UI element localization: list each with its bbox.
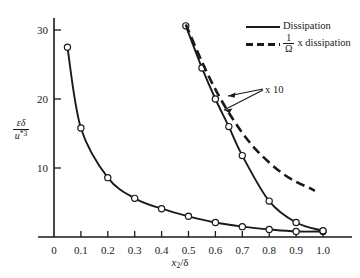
legend-fraction-denominator: Ω	[283, 44, 294, 55]
x-tick-label: 0.2	[101, 244, 115, 256]
x10-annotation-label: x 10	[265, 84, 283, 95]
x-tick-label: 0.3	[128, 244, 142, 256]
y-axis-title: εδ u*3	[4, 118, 38, 141]
x-tick-label: 0.5	[182, 244, 196, 256]
legend-item-omega-dissipation: 1 Ω x dissipation	[246, 35, 351, 52]
data-series-group	[64, 23, 326, 235]
y-axis-denominator: u*3	[13, 130, 30, 142]
x-tick-label: 0.8	[262, 244, 276, 256]
y-tick-label: 10	[22, 162, 48, 174]
x-tick-label: 0.7	[235, 244, 249, 256]
data-point-marker	[239, 152, 245, 158]
y-axis-exponent: *3	[20, 129, 28, 138]
data-point-marker	[212, 96, 218, 102]
data-point-marker	[64, 44, 70, 50]
legend-label-dissipation: Dissipation	[283, 21, 331, 32]
x10-leader-arrows	[224, 89, 263, 113]
data-point-marker	[212, 219, 218, 225]
data-point-marker	[293, 219, 299, 225]
data-point-marker	[185, 213, 191, 219]
data-point-marker	[266, 198, 272, 204]
data-point-marker	[159, 206, 165, 212]
legend-fraction-one-over-omega: 1 Ω	[283, 33, 294, 55]
x-tick-label: 0.4	[155, 244, 169, 256]
series-line-0	[67, 47, 323, 231]
legend-solid-line-swatch	[246, 22, 280, 32]
y-axis-fraction: εδ u*3	[13, 118, 30, 141]
data-point-marker	[78, 125, 84, 131]
x-axis-tail: /δ	[180, 256, 188, 268]
x-tick-label: 0.9	[289, 244, 303, 256]
x-tick-marks	[81, 231, 323, 237]
data-point-marker	[320, 228, 326, 234]
x-tick-label: 0.1	[74, 244, 88, 256]
series-line-1	[186, 26, 323, 231]
x-tick-label: 0	[51, 244, 57, 256]
legend-label-text: x dissipation	[297, 38, 350, 49]
y-tick-label: 20	[22, 93, 48, 105]
y-tick-label: 30	[22, 24, 48, 36]
data-point-marker	[105, 175, 111, 181]
legend: Dissipation 1 Ω x dissipation	[246, 18, 351, 52]
x-axis-title: x2/δ	[172, 256, 189, 270]
legend-dashed-line-swatch	[246, 39, 280, 49]
data-point-marker	[266, 226, 272, 232]
data-point-marker	[293, 228, 299, 234]
x-tick-label: 1.0	[316, 244, 330, 256]
x-tick-label: 0.6	[209, 244, 223, 256]
data-point-marker	[239, 224, 245, 230]
dissipation-chart-figure: 00.10.20.30.40.50.60.70.80.91.0 102030 ε…	[0, 0, 360, 278]
data-point-marker	[226, 124, 232, 130]
data-point-marker	[132, 195, 138, 201]
legend-label-omega-dissipation: 1 Ω x dissipation	[283, 33, 351, 55]
y-tick-marks	[54, 30, 61, 168]
